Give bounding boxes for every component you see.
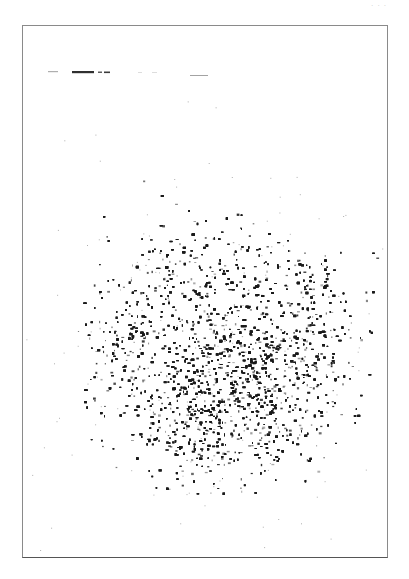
scintigraphy-image	[0, 0, 409, 579]
